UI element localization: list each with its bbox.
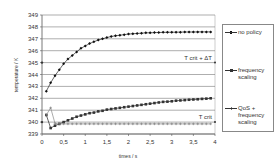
cross-marker-icon: [225, 105, 237, 112]
legend-item-qos-frequency-scaling: QoS + frequency scaling: [225, 105, 275, 126]
svg-text:1: 1: [84, 139, 88, 145]
svg-text:342: 342: [28, 95, 39, 101]
svg-text:346: 346: [28, 48, 39, 54]
svg-text:348: 348: [28, 24, 39, 30]
svg-text:1,5: 1,5: [103, 139, 112, 145]
svg-text:345: 345: [28, 60, 39, 66]
x-axis-label: times / s: [119, 153, 138, 159]
legend-item-no-policy: no policy: [225, 29, 275, 36]
svg-text:T crit: T crit: [199, 114, 213, 120]
data-series: [45, 30, 212, 129]
svg-text:0: 0: [40, 139, 44, 145]
svg-text:2,5: 2,5: [146, 139, 155, 145]
svg-text:343: 343: [28, 83, 39, 89]
svg-text:341: 341: [28, 107, 39, 113]
legend-label: frequency scaling: [237, 67, 275, 81]
y-axis-ticks: 339340341342343344345346347348349: [28, 12, 39, 137]
svg-text:2: 2: [127, 139, 131, 145]
svg-text:3,5: 3,5: [189, 139, 198, 145]
svg-text:T crit + ΔT: T crit + ΔT: [184, 55, 212, 61]
x-axis-ticks: 00,511,522,533,54: [40, 139, 217, 145]
legend-label: QoS + frequency scaling: [237, 105, 275, 126]
svg-text:340: 340: [28, 119, 39, 125]
legend: no policy frequency scaling QoS + freque…: [222, 24, 274, 132]
svg-text:344: 344: [28, 72, 39, 78]
svg-text:4: 4: [213, 139, 217, 145]
legend-label: no policy: [237, 29, 262, 36]
svg-text:0,5: 0,5: [59, 139, 68, 145]
y-axis-label: temperature / K: [13, 57, 19, 92]
svg-text:347: 347: [28, 36, 39, 42]
svg-text:349: 349: [28, 12, 39, 18]
legend-item-frequency-scaling: frequency scaling: [225, 67, 275, 81]
diamond-marker-icon: [225, 29, 237, 36]
svg-text:3: 3: [170, 139, 174, 145]
square-marker-icon: [225, 67, 237, 74]
svg-text:339: 339: [28, 131, 39, 137]
